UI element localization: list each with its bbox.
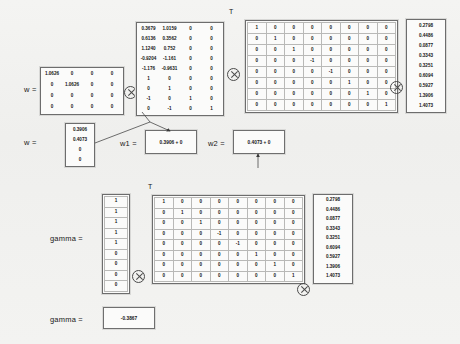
matrix-cell: 0 [284, 219, 303, 230]
matrix-row: 1.4073 [315, 272, 351, 282]
matrix-cell: 0 [155, 250, 174, 261]
matrix-cell: 0 [229, 261, 248, 272]
kron-operator-icon [297, 283, 310, 296]
gamma-result-value: -0.3867 [121, 316, 137, 321]
matrix-row: 0.3251 [315, 234, 351, 244]
matrix-cell: 0 [105, 249, 128, 260]
matrix-cell: 1 [105, 218, 128, 229]
observation-vector: 0.27980.44860.08770.33430.32510.60940.59… [313, 194, 353, 284]
matrix-cell: 0 [266, 250, 285, 261]
row3-label: gamma = [50, 234, 83, 243]
matrix-cell: 0 [266, 219, 285, 230]
matrix-cell: 1.3906 [315, 263, 351, 273]
matrix-cell: 0 [247, 198, 266, 209]
matrix-cell: 1 [173, 208, 192, 219]
matrix-cell: 0 [192, 208, 211, 219]
matrix-cell: 1 [266, 261, 285, 272]
matrix-cell: 0 [192, 271, 211, 282]
matrix-cell: 0 [155, 219, 174, 230]
matrix-cell: 0 [210, 261, 229, 272]
matrix-cell: 0 [284, 229, 303, 240]
matrix-cell: 0.4486 [315, 206, 351, 216]
matrix-cell: 0 [229, 229, 248, 240]
matrix-cell: 0 [210, 198, 229, 209]
matrix-cell: 0 [229, 208, 248, 219]
matrix-cell: 0 [210, 250, 229, 261]
matrix-cell: 0 [247, 261, 266, 272]
gamma-result-box: -0.3867 [103, 307, 155, 329]
matrix-cell: 0 [210, 271, 229, 282]
matrix-row: 1 [105, 239, 128, 250]
matrix-row: 00000010 [155, 261, 303, 272]
matrix-row: 0 [105, 249, 128, 260]
matrix-cell: 0 [192, 198, 211, 209]
matrix-cell: 0 [266, 198, 285, 209]
kron-operator-icon [132, 270, 145, 283]
matrix-cell: 0 [173, 219, 192, 230]
matrix-cell: 0 [210, 240, 229, 251]
matrix-cell: 0 [229, 198, 248, 209]
matrix-cell: 1 [105, 239, 128, 250]
matrix-row: 00000001 [155, 271, 303, 282]
matrix-row: 0 [105, 260, 128, 271]
matrix-cell: 0 [266, 208, 285, 219]
matrix-cell: 0 [192, 240, 211, 251]
matrix-row: 00000100 [155, 250, 303, 261]
matrix-row: 0000-1000 [155, 240, 303, 251]
matrix-cell: 0 [229, 219, 248, 230]
matrix-cell: 0 [247, 219, 266, 230]
gamma-vector-table: 111110000 [104, 196, 128, 292]
matrix-cell: 0 [247, 240, 266, 251]
matrix-row: 0.4486 [315, 206, 351, 216]
matrix-row: 1 [105, 228, 128, 239]
matrix-row: 0 [105, 270, 128, 281]
matrix-cell: 0.2798 [315, 196, 351, 206]
matrix-cell: 1.4073 [315, 272, 351, 282]
matrix-cell: 0 [210, 219, 229, 230]
matrix-cell: 0 [266, 229, 285, 240]
matrix-cell: 0 [173, 229, 192, 240]
matrix-row: 01000000 [155, 208, 303, 219]
matrix-row: 0.0877 [315, 215, 351, 225]
matrix-cell: 0.3343 [315, 225, 351, 235]
signed-identity-matrix: 100000000100000000100000000-100000000-10… [152, 195, 305, 284]
matrix-row: 1 [105, 218, 128, 229]
matrix-row: 1 [105, 197, 128, 208]
signed-identity-matrix-table: 100000000100000000100000000-100000000-10… [154, 197, 303, 282]
matrix-row: 000-10000 [155, 229, 303, 240]
matrix-cell: 0 [155, 208, 174, 219]
matrix-cell: 0.6094 [315, 244, 351, 254]
matrix-cell: 0 [247, 271, 266, 282]
matrix-cell: -1 [229, 240, 248, 251]
matrix-cell: 1 [105, 197, 128, 208]
matrix-cell: 0 [229, 250, 248, 261]
matrix-row: 0.2798 [315, 196, 351, 206]
matrix-cell: 0 [155, 261, 174, 272]
matrix-cell: 0 [247, 229, 266, 240]
matrix-row: 0.5927 [315, 253, 351, 263]
matrix-cell: 0 [229, 271, 248, 282]
matrix-cell: 1 [155, 198, 174, 209]
matrix-cell: 1 [284, 271, 303, 282]
matrix-row: 10000000 [155, 198, 303, 209]
matrix-cell: 0 [105, 260, 128, 271]
matrix-cell: 0 [105, 281, 128, 292]
matrix-cell: 0 [173, 198, 192, 209]
matrix-cell: 0 [266, 240, 285, 251]
matrix-cell: 0 [266, 271, 285, 282]
matrix-cell: 0 [210, 208, 229, 219]
matrix-cell: -1 [210, 229, 229, 240]
matrix-cell: 0 [284, 208, 303, 219]
matrix-cell: 1 [105, 228, 128, 239]
matrix-row: 1 [105, 207, 128, 218]
matrix-cell: 1 [105, 207, 128, 218]
arrow-head-w1 [150, 122, 170, 131]
matrix-cell: 1 [192, 219, 211, 230]
matrix-row: 0.3343 [315, 225, 351, 235]
matrix-cell: 0 [284, 261, 303, 272]
matrix-cell: 0 [284, 240, 303, 251]
matrix-cell: 0 [192, 250, 211, 261]
matrix-cell: 0 [284, 250, 303, 261]
matrix-cell: 0.3251 [315, 234, 351, 244]
matrix-cell: 0 [192, 229, 211, 240]
